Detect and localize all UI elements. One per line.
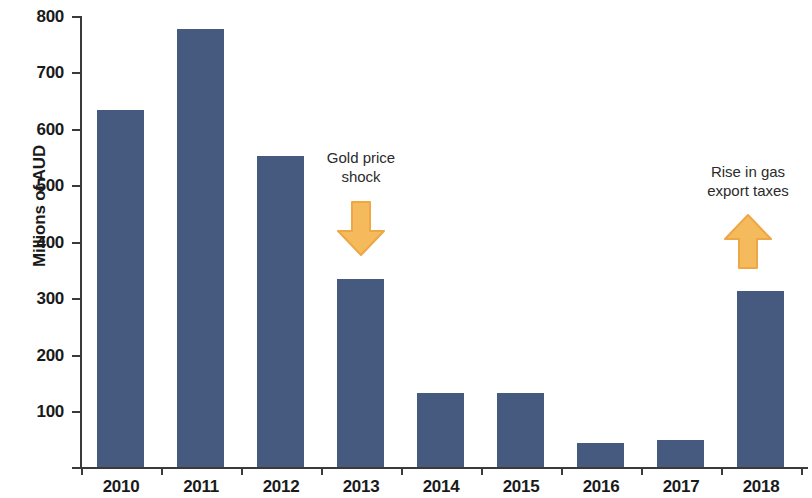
annotation-gold-price-shock-text: Gold price shock: [296, 148, 426, 186]
y-axis-line: [80, 16, 82, 469]
y-tick-label-500: 500: [8, 176, 64, 196]
bar-2015: [497, 393, 544, 467]
down-arrow-icon: [335, 200, 387, 258]
x-tick-label-2012: 2012: [241, 477, 321, 497]
y-tick-label-200: 200: [8, 346, 64, 366]
x-tick-mark-5: [481, 467, 483, 475]
x-tick-label-2010: 2010: [81, 477, 161, 497]
annotation-gold-price-shock-arrow-wrap: [296, 200, 426, 258]
y-tick-label-300: 300: [8, 289, 64, 309]
annotation-rise-in-gas-export-taxes-text: Rise in gas export taxes: [684, 162, 812, 200]
x-tick-mark-9: [801, 467, 803, 475]
bar-2018: [737, 291, 784, 467]
y-tick-label-700: 700: [8, 63, 64, 83]
y-tick-label-400: 400: [8, 233, 64, 253]
y-tick-mark-700: [72, 72, 80, 74]
x-tick-mark-6: [561, 467, 563, 475]
y-tick-mark-400: [72, 242, 80, 244]
x-tick-label-2013: 2013: [321, 477, 401, 497]
x-tick-mark-1: [161, 467, 163, 475]
x-tick-label-2017: 2017: [641, 477, 721, 497]
bar-chart: Millions of AUD 800 700 600 500 400 300 …: [0, 0, 812, 498]
y-tick-mark-200: [72, 355, 80, 357]
annotation-rise-in-gas-export-taxes-arrow-wrap: [684, 212, 812, 270]
x-tick-mark-4: [401, 467, 403, 475]
x-axis-line: [80, 467, 808, 469]
annotation-gold-price-shock: Gold price shock: [296, 148, 426, 258]
x-tick-mark-0: [81, 467, 83, 475]
y-tick-mark-0: [72, 467, 80, 469]
x-tick-label-2016: 2016: [561, 477, 641, 497]
bar-2010: [97, 110, 144, 467]
bar-2016: [577, 443, 624, 467]
y-tick-mark-500: [72, 185, 80, 187]
x-tick-label-2011: 2011: [161, 477, 241, 497]
x-tick-mark-8: [721, 467, 723, 475]
bar-2017: [657, 440, 704, 467]
y-tick-mark-800: [72, 16, 80, 18]
y-tick-label-800: 800: [8, 7, 64, 27]
bar-2011: [177, 29, 224, 467]
x-tick-label-2018: 2018: [721, 477, 801, 497]
y-tick-mark-100: [72, 411, 80, 413]
x-tick-mark-2: [241, 467, 243, 475]
x-tick-mark-3: [321, 467, 323, 475]
bar-2013: [337, 279, 384, 467]
y-tick-mark-300: [72, 298, 80, 300]
x-tick-label-2014: 2014: [401, 477, 481, 497]
y-tick-label-600: 600: [8, 120, 64, 140]
bar-2014: [417, 393, 464, 467]
up-arrow-icon: [722, 212, 774, 270]
y-tick-label-100: 100: [8, 402, 64, 422]
x-tick-mark-7: [641, 467, 643, 475]
annotation-rise-in-gas-export-taxes: Rise in gas export taxes: [684, 162, 812, 270]
x-tick-label-2015: 2015: [481, 477, 561, 497]
y-tick-mark-600: [72, 129, 80, 131]
